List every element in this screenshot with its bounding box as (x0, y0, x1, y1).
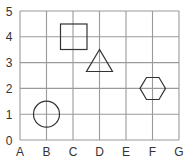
grid-lines (20, 11, 179, 140)
x-label: B (42, 145, 50, 159)
y-label: 0 (6, 134, 13, 148)
y-label: 1 (6, 108, 13, 122)
grid-diagram: 0 1 2 3 4 5 A B C D E F G (0, 0, 185, 160)
y-label: 3 (6, 56, 13, 70)
x-label: E (122, 145, 130, 159)
y-label: 2 (6, 82, 13, 96)
y-label: 5 (6, 5, 13, 19)
x-label: F (149, 145, 156, 159)
y-axis-labels: 0 1 2 3 4 5 (6, 5, 13, 148)
x-label: G (174, 145, 183, 159)
x-label: A (16, 145, 24, 159)
x-axis-labels: A B C D E F G (16, 145, 184, 159)
x-label: C (69, 145, 78, 159)
x-label: D (95, 145, 104, 159)
y-label: 4 (6, 30, 13, 44)
